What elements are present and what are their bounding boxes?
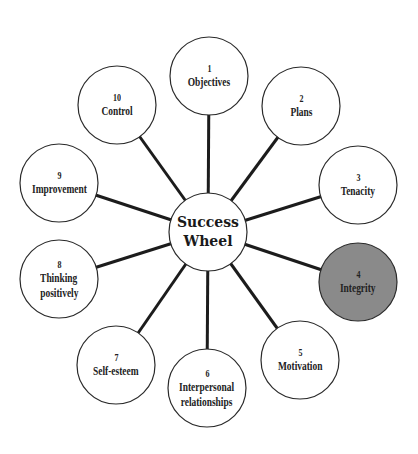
node-number: 5 — [298, 346, 302, 359]
node-number: 4 — [356, 268, 360, 281]
node-label-line2: positively — [40, 286, 78, 301]
node-number: 6 — [205, 367, 209, 380]
hub-title-line1: Success — [177, 213, 239, 232]
hub-label: SuccessWheel — [169, 193, 247, 271]
node-label-line2: relationships — [181, 395, 233, 410]
node-number: 3 — [356, 171, 360, 184]
node-label: Tenacity — [341, 184, 375, 199]
node-number: 10 — [113, 91, 121, 104]
node-number: 2 — [299, 92, 303, 105]
node-number: 8 — [57, 258, 61, 271]
wheel-node-8: 8Thinkingpositively — [20, 240, 98, 318]
wheel-node-5: 5Motivation — [261, 321, 339, 399]
node-label: Plans — [290, 105, 312, 120]
node-number: 7 — [114, 351, 118, 364]
node-label: Thinking — [40, 271, 77, 286]
node-label: Motivation — [278, 359, 323, 374]
wheel-node-10: 10Control — [78, 66, 156, 144]
node-number: 9 — [57, 169, 61, 182]
wheel-node-6: 6Interpersonalrelationships — [168, 349, 246, 427]
wheel-node-1: 1Objectives — [170, 37, 248, 115]
wheel-node-4: 4Integrity — [319, 243, 397, 321]
wheel-node-2: 2Plans — [262, 67, 340, 145]
node-label: Control — [101, 104, 132, 119]
node-number: 1 — [207, 62, 211, 75]
wheel-node-7: 7Self-esteem — [77, 326, 155, 404]
node-label: Integrity — [340, 281, 376, 296]
node-label: Objectives — [188, 75, 230, 90]
wheel-node-9: 9Improvement — [20, 144, 98, 222]
hub-title-line2: Wheel — [183, 232, 232, 251]
wheel-node-3: 3Tenacity — [319, 146, 397, 224]
node-label: Self-esteem — [93, 364, 139, 379]
node-label: Interpersonal — [179, 380, 234, 395]
node-label: Improvement — [32, 182, 87, 197]
